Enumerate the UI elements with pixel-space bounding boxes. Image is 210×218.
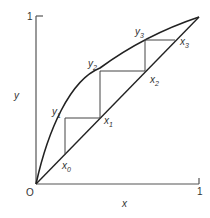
point-label-x1: x1	[103, 115, 113, 128]
staircase-diagram: 1 y O x 1 x0 y1 x1 y2 x2 y3 x3	[0, 0, 210, 218]
point-label-x0: x0	[61, 160, 71, 173]
point-label-x3: x3	[179, 36, 189, 49]
diagonal-line	[36, 17, 199, 184]
y-max-label: 1	[27, 11, 33, 22]
point-label-y2: y2	[87, 58, 97, 71]
point-label-y3: y3	[134, 26, 144, 39]
y-axis-label: y	[13, 90, 20, 101]
point-label-y1: y1	[51, 106, 61, 119]
origin-label: O	[26, 187, 34, 198]
x-max-label: 1	[197, 186, 203, 197]
point-label-x2: x2	[149, 74, 159, 87]
x-axis-label: x	[121, 198, 128, 209]
